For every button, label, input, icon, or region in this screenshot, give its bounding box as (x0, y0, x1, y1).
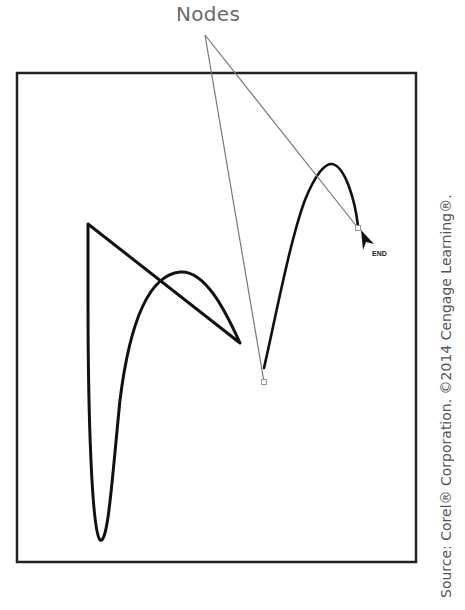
node-marker-cusp[interactable] (262, 380, 267, 385)
source-credit: Source: Corel® Corporation. ©2014 Cengag… (438, 194, 454, 598)
nodes-callout-label: Nodes (176, 2, 240, 26)
callout-line-2 (205, 35, 358, 228)
path-stroke-1 (88, 224, 240, 540)
end-arrow-icon (361, 230, 374, 250)
end-label: END (372, 250, 387, 257)
node-marker-end[interactable] (356, 226, 361, 231)
diagram-svg (0, 0, 465, 610)
page-frame (17, 73, 416, 562)
diagram-canvas: Nodes END Source: Corel® Corporation. ©2… (0, 0, 465, 610)
path-stroke-2 (264, 164, 358, 368)
